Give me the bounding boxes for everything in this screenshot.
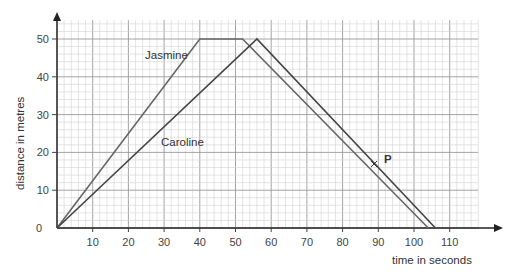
caroline-label: Caroline [161, 136, 204, 148]
svg-text:0: 0 [36, 222, 42, 234]
svg-text:50: 50 [229, 236, 241, 248]
svg-text:10: 10 [37, 184, 49, 196]
svg-text:10: 10 [87, 236, 99, 248]
jasmine-label: Jasmine [145, 49, 188, 61]
svg-text:90: 90 [372, 236, 384, 248]
x-axis-label: time in seconds [392, 254, 472, 266]
svg-text:20: 20 [37, 146, 49, 158]
svg-text:110: 110 [441, 236, 459, 248]
svg-text:80: 80 [336, 236, 348, 248]
svg-text:70: 70 [301, 236, 313, 248]
y-axis-label: distance in metres [14, 96, 26, 190]
svg-text:100: 100 [405, 236, 423, 248]
svg-text:60: 60 [265, 236, 277, 248]
svg-text:50: 50 [37, 33, 49, 45]
svg-text:30: 30 [37, 109, 49, 121]
point-p-label: P [384, 153, 392, 165]
tick-labels: 10203040506070809010011001020304050 [36, 33, 459, 248]
svg-text:40: 40 [37, 71, 49, 83]
svg-text:40: 40 [194, 236, 206, 248]
svg-text:20: 20 [122, 236, 134, 248]
svg-text:30: 30 [158, 236, 170, 248]
distance-time-chart: 10203040506070809010011001020304050 time… [0, 0, 518, 276]
